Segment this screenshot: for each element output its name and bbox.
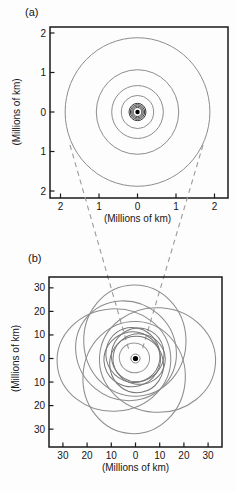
orbit-outer <box>96 304 219 416</box>
x-tick-label: 10 <box>106 450 118 461</box>
orbit-figure-page: (a) (b) 2211001122(Millions of km)(Milli… <box>0 0 236 491</box>
y-tick-label: 30 <box>34 282 46 293</box>
panel-b-plot: 30302020101000101020203030(Millions of k… <box>10 277 223 473</box>
y-axis-title: (Millions of km) <box>11 78 22 145</box>
y-tick-label: 0 <box>40 107 46 118</box>
y-tick-label: 2 <box>40 186 46 197</box>
x-tick-label: 30 <box>203 450 215 461</box>
y-tick-label: 20 <box>34 400 46 411</box>
central-body-dot <box>135 110 139 114</box>
x-tick-label: 2 <box>58 201 64 212</box>
x-tick-label: 1 <box>173 201 179 212</box>
figure-canvas: (a) (b) 2211001122(Millions of km)(Milli… <box>0 0 236 491</box>
y-tick-label: 20 <box>34 306 46 317</box>
y-tick-label: 30 <box>34 424 46 435</box>
y-tick-label: 10 <box>34 329 46 340</box>
panel-a-label: (a) <box>25 6 38 18</box>
orbit-outer <box>82 283 188 398</box>
x-tick-label: 10 <box>154 450 166 461</box>
x-tick-label: 1 <box>96 201 102 212</box>
y-axis-title: (Millions of km) <box>10 325 21 392</box>
y-tick-label: 0 <box>39 353 45 364</box>
x-tick-label: 0 <box>133 450 139 461</box>
x-tick-label: 0 <box>135 201 141 212</box>
x-axis-title: (Millions of km) <box>102 462 169 473</box>
y-tick-label: 1 <box>40 146 46 157</box>
panel-a-plot: 2211001122(Millions of km)(Millions of k… <box>11 27 229 224</box>
central-body-dot <box>133 356 138 361</box>
orbit-outer <box>55 280 197 421</box>
x-tick-label: 2 <box>212 201 218 212</box>
x-tick-label: 30 <box>57 450 69 461</box>
panel-b-label: (b) <box>28 252 41 264</box>
y-tick-label: 2 <box>40 28 46 39</box>
x-tick-label: 20 <box>82 450 94 461</box>
x-axis-title: (Millions of km) <box>104 213 171 224</box>
y-tick-label: 1 <box>40 67 46 78</box>
y-tick-label: 10 <box>34 377 46 388</box>
x-tick-label: 20 <box>178 450 190 461</box>
